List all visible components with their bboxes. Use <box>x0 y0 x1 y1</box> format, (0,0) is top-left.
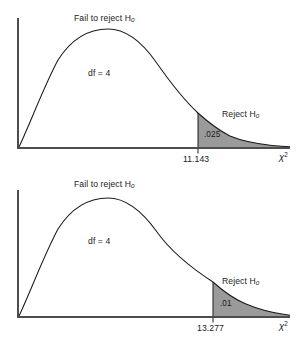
h-null-subscript: 0 <box>131 182 135 189</box>
h-null-subscript: 0 <box>256 279 260 286</box>
chi-square-curve-top <box>0 0 302 170</box>
density-curve-top <box>19 29 291 148</box>
reject-label-bottom: Reject H0 <box>222 277 259 287</box>
x-axis-label-bottom: χ2 <box>279 321 288 331</box>
h-null-subscript: 0 <box>131 16 135 23</box>
density-curve-bottom <box>19 198 291 317</box>
tail-area-label-bottom: .01 <box>220 300 232 308</box>
x-axis-label-top: χ2 <box>279 152 288 162</box>
chi-square-critical-region-figure: Fail to reject H0 df = 4 Reject H0 .025 … <box>0 0 302 341</box>
chart-panel-top: Fail to reject H0 df = 4 Reject H0 .025 … <box>0 0 302 170</box>
critical-value-label-bottom: 13.277 <box>197 324 224 333</box>
chart-panel-bottom: Fail to reject H0 df = 4 Reject H0 .01 1… <box>0 171 302 341</box>
critical-value-label-top: 11.143 <box>183 155 209 164</box>
chi-square-curve-bottom <box>0 171 302 341</box>
df-label-bottom: df = 4 <box>88 237 110 246</box>
exponent-two: 2 <box>284 320 288 327</box>
fail-to-reject-label-bottom: Fail to reject H0 <box>74 180 135 190</box>
h-null-subscript: 0 <box>256 112 260 119</box>
reject-label-top: Reject H0 <box>222 110 259 120</box>
df-label-top: df = 4 <box>88 69 110 78</box>
exponent-two: 2 <box>284 151 288 158</box>
tail-area-label-top: .025 <box>204 131 220 139</box>
fail-to-reject-label-top: Fail to reject H0 <box>74 14 135 24</box>
